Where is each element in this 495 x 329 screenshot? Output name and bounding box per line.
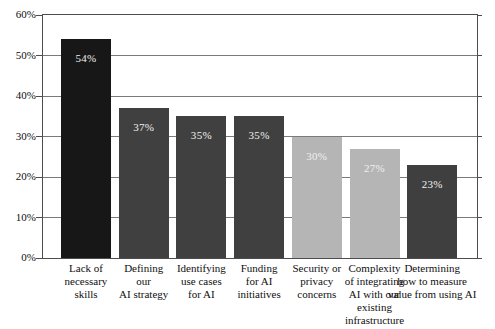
bar-1: 54% (61, 39, 111, 258)
bar-4: 35% (234, 116, 284, 258)
y-tick-label-30: 30% (0, 130, 36, 143)
bar-5: 30% (292, 137, 342, 259)
bar-3: 35% (176, 116, 226, 258)
bar-chart: 0%10%20%30%40%50%60% 54%37%35%35%30%27%2… (0, 0, 495, 329)
y-tick-label-60: 60% (0, 8, 36, 21)
bar-value-label: 27% (350, 149, 400, 174)
bar-value-label: 35% (176, 116, 226, 141)
y-tick-label-20: 20% (0, 170, 36, 183)
bar-2: 37% (119, 108, 169, 258)
y-tick-label-0: 0% (0, 251, 36, 264)
plot-area: 54%37%35%35%30%27%23% (42, 14, 478, 259)
bar-value-label: 37% (119, 108, 169, 133)
y-tick-label-50: 50% (0, 49, 36, 62)
bar-value-label: 54% (61, 39, 111, 64)
bar-6: 27% (350, 149, 400, 258)
bar-value-label: 23% (407, 165, 457, 190)
bar-value-label: 35% (234, 116, 284, 141)
bar-7: 23% (407, 165, 457, 258)
x-category-label-7: Determining how to measure value from us… (380, 262, 484, 301)
y-tick-label-10: 10% (0, 211, 36, 224)
bar-value-label: 30% (292, 137, 342, 162)
y-tick-label-40: 40% (0, 89, 36, 102)
